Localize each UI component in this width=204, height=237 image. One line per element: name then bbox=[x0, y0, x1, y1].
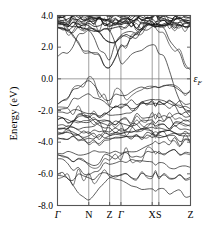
x-tick-label-Γ: Γ bbox=[54, 209, 61, 220]
band-structure-figure: Energy (eV) 4.02.00.0-2.0-4.0-6.0-8.0ΓNZ… bbox=[0, 0, 204, 237]
grid-layer bbox=[58, 16, 191, 206]
y-tick-label: 2.0 bbox=[41, 42, 53, 52]
y-tick-label: -8.0 bbox=[38, 201, 53, 211]
y-tick-label: -2.0 bbox=[38, 106, 53, 116]
x-tick-label-Z: Z bbox=[187, 209, 193, 220]
y-tick-label: -4.0 bbox=[38, 137, 53, 147]
y-tick-label: 4.0 bbox=[41, 11, 53, 21]
x-tick-label-Z: Z bbox=[107, 209, 113, 220]
annotations: εF bbox=[194, 73, 203, 87]
x-tick-label-Γ: Γ bbox=[117, 209, 124, 220]
x-tick-label-N: N bbox=[85, 209, 92, 220]
x-tick-label-S: S bbox=[156, 209, 162, 220]
plot-frame bbox=[58, 16, 191, 206]
y-tick-label: -6.0 bbox=[38, 169, 53, 179]
y-tick-label: 0.0 bbox=[41, 74, 53, 84]
fermi-level-label: εF bbox=[194, 73, 203, 87]
plot-canvas: 4.02.00.0-2.0-4.0-6.0-8.0ΓNZΓXSZ εF bbox=[0, 0, 204, 237]
bands-layer bbox=[58, 8, 191, 200]
